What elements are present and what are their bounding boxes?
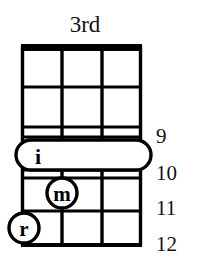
chord-diagram: 3rd i m r 9 10 [0,0,197,272]
finger-label-middle: m [53,182,71,206]
finger-marker-middle: m [47,178,77,208]
fret-number-11: 11 [156,198,176,219]
barre-label-index: i [35,144,41,169]
fret-number-10: 10 [156,163,177,184]
finger-label-ring: r [19,217,28,241]
fret-number-9: 9 [156,126,167,147]
fret-number-12: 12 [156,234,177,255]
barre-marker-index: i [16,140,151,170]
finger-marker-ring: r [9,213,39,243]
nut-bar [21,44,142,51]
